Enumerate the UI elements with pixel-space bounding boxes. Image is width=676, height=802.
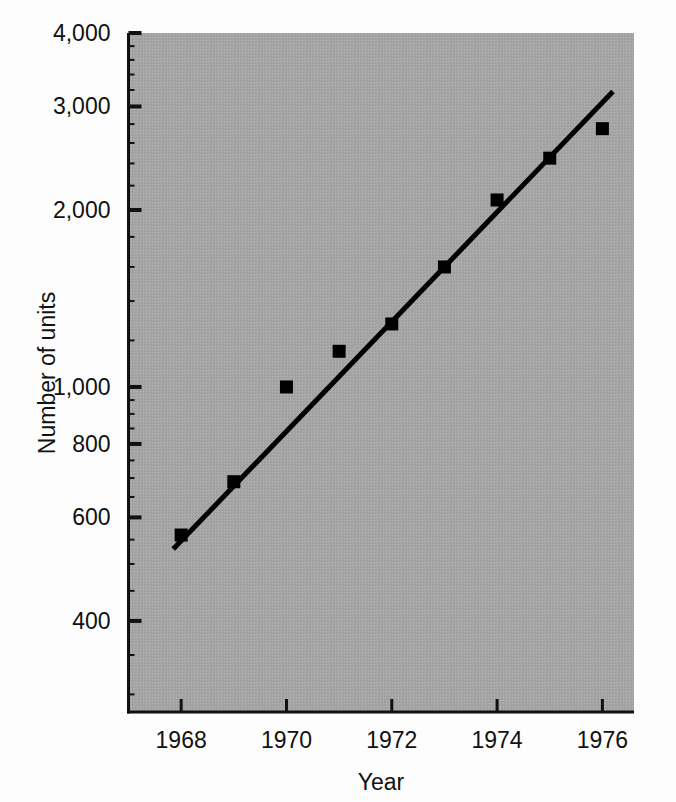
- x-tick-label: 1974: [472, 727, 523, 753]
- y-tick-label: 400: [72, 608, 110, 634]
- y-tick-label: 1,000: [53, 374, 111, 400]
- data-point-marker: [491, 193, 504, 206]
- y-tick-label: 3,000: [53, 93, 111, 119]
- data-point-marker: [596, 122, 609, 135]
- data-point-marker: [543, 152, 556, 165]
- y-axis-title: Number of units: [34, 292, 60, 454]
- x-tick-label: 1972: [366, 727, 417, 753]
- data-point-marker: [280, 380, 293, 393]
- y-tick-label: 2,000: [53, 197, 111, 223]
- x-axis-title: Year: [358, 769, 405, 795]
- data-point-marker: [385, 317, 398, 330]
- x-tick-label: 1968: [156, 727, 207, 753]
- data-point-marker: [175, 529, 188, 542]
- x-tick-label-group: 19681970197219741976: [156, 727, 628, 753]
- log-scatter-chart: 4006008001,0002,0003,0004,000 1968197019…: [0, 0, 676, 802]
- x-tick-label: 1970: [261, 727, 312, 753]
- data-point-marker: [227, 475, 240, 488]
- plot-area-background: [128, 33, 634, 713]
- y-tick-label-group: 4006008001,0002,0003,0004,000: [53, 20, 111, 634]
- data-point-marker: [438, 260, 451, 273]
- data-point-marker: [333, 345, 346, 358]
- y-tick-label: 600: [72, 504, 110, 530]
- chart-figure: 4006008001,0002,0003,0004,000 1968197019…: [0, 0, 676, 802]
- y-tick-label: 4,000: [53, 20, 111, 46]
- y-tick-label: 800: [72, 431, 110, 457]
- x-tick-label: 1976: [577, 727, 628, 753]
